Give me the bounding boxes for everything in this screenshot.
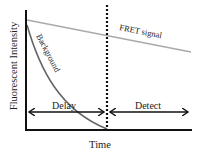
time-resolved-fret-diagram: Fluorescent Intensity Time FRET signal B… [0, 0, 201, 158]
background-label: Background [34, 32, 63, 74]
y-axis-label: Fluorescent Intensity [8, 21, 19, 110]
fret-signal-label: FRET signal [119, 22, 164, 40]
detect-label: Detect [135, 100, 161, 111]
delay-label: Delay [52, 100, 76, 111]
x-axis-label: Time [89, 139, 111, 150]
